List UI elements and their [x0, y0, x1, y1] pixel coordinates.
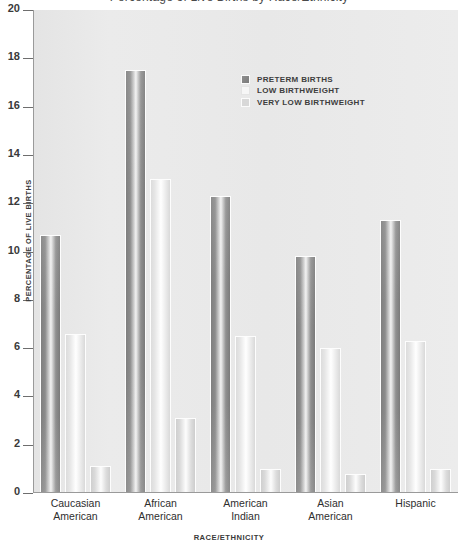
y-axis-tick-label: 20 — [0, 2, 20, 14]
legend-swatch-low-birthweight — [241, 86, 250, 95]
y-axis-tick-mark — [23, 155, 33, 156]
y-axis-tick-mark — [23, 445, 33, 446]
bar — [405, 341, 427, 493]
bar — [65, 334, 87, 493]
legend-label-very-low-birthweight: VERY LOW BIRTHWEIGHT — [257, 98, 365, 107]
bar-group — [125, 10, 197, 493]
y-axis-tick-label: 4 — [0, 388, 20, 400]
y-axis-tick-label: 12 — [0, 195, 20, 207]
bar — [345, 474, 367, 493]
y-axis-tick-mark — [23, 58, 33, 59]
bar — [150, 179, 172, 493]
x-axis-line — [33, 492, 458, 493]
y-axis-tick-label: 16 — [0, 99, 20, 111]
y-axis-line — [33, 10, 34, 493]
legend-swatch-preterm-births — [241, 75, 250, 84]
y-axis-tick-mark — [23, 348, 33, 349]
x-axis-category-label-line: Indian — [203, 510, 288, 523]
bar — [90, 466, 112, 493]
y-axis-tick-mark — [23, 493, 33, 494]
bar — [175, 418, 197, 493]
legend-swatch-very-low-birthweight — [241, 98, 250, 107]
bar — [295, 256, 317, 493]
x-axis-category-label: CaucasianAmerican — [33, 497, 118, 523]
y-axis-tick-mark — [23, 396, 33, 397]
bar — [40, 235, 62, 493]
x-axis-category-label-line: Asian — [288, 497, 373, 510]
y-axis-title: PERCENTAGE OF LIVE BIRTHS — [24, 161, 33, 321]
y-axis-tick-label: 2 — [0, 437, 20, 449]
x-axis-category-label: AsianAmerican — [288, 497, 373, 523]
x-axis-category-label: AmericanIndian — [203, 497, 288, 523]
x-axis-title: RACE/ETHNICITY — [0, 533, 458, 542]
y-axis-tick-mark — [23, 10, 33, 11]
y-axis-tick-label: 18 — [0, 50, 20, 62]
x-axis-category-label-line: Caucasian — [33, 497, 118, 510]
legend-label-preterm-births: PRETERM BIRTHS — [257, 75, 333, 84]
y-axis-tick-label: 0 — [0, 485, 20, 497]
bar — [260, 469, 282, 493]
bar — [210, 196, 232, 493]
x-axis-category-label-line: American — [203, 497, 288, 510]
legend-item-very-low-birthweight: VERY LOW BIRTHWEIGHT — [241, 97, 365, 108]
bar-group — [380, 10, 452, 493]
legend-item-low-birthweight: LOW BIRTHWEIGHT — [241, 86, 365, 97]
chart-legend: PRETERM BIRTHS LOW BIRTHWEIGHT VERY LOW … — [241, 74, 365, 109]
bar — [430, 469, 452, 493]
legend-item-preterm-births: PRETERM BIRTHS — [241, 74, 365, 85]
bar — [235, 336, 257, 493]
x-axis-category-label: Hispanic — [373, 497, 458, 510]
x-axis-category-label-line: African — [118, 497, 203, 510]
bar — [380, 220, 402, 493]
x-axis-category-labels: CaucasianAmericanAfricanAmericanAmerican… — [33, 497, 458, 533]
bar — [125, 70, 147, 493]
x-axis-category-label: AfricanAmerican — [118, 497, 203, 523]
bar — [320, 348, 342, 493]
legend-label-low-birthweight: LOW BIRTHWEIGHT — [257, 86, 340, 95]
y-axis-tick-label: 8 — [0, 292, 20, 304]
y-axis-tick-mark — [23, 107, 33, 108]
x-axis-category-label-line: American — [33, 510, 118, 523]
y-axis-tick-label: 14 — [0, 147, 20, 159]
chart-figure: 20181614121086420 PERCENTAGE OF LIVE BIR… — [0, 0, 458, 555]
y-axis-tick-label: 10 — [0, 244, 20, 256]
y-axis-tick-label: 6 — [0, 340, 20, 352]
x-axis-category-label-line: American — [118, 510, 203, 523]
x-axis-category-label-line: American — [288, 510, 373, 523]
bar-group — [40, 10, 112, 493]
x-axis-category-label-line: Hispanic — [373, 497, 458, 510]
